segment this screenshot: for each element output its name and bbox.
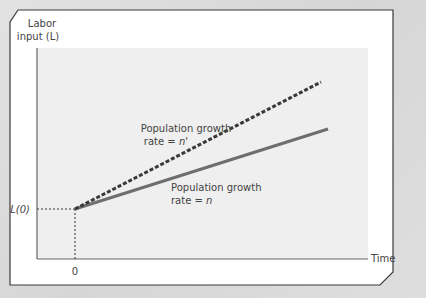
- x-tick-0: 0: [72, 266, 78, 277]
- y-axis-label-line1: Labor: [28, 18, 57, 29]
- series-n-label-line1: Population growth: [171, 182, 262, 193]
- series-n-prime-label-line2: rate = n': [144, 136, 188, 147]
- y-axis-label-line2: input (L): [17, 31, 59, 42]
- x-axis-label: Time: [370, 253, 395, 264]
- y-tick-l0: L(0): [10, 204, 30, 215]
- plot-area: [37, 48, 368, 259]
- labor-input-chart: Labor input (L) Time L(0) 0 Population g…: [0, 0, 426, 298]
- series-n-prime-label-line1: Population growth: [141, 123, 232, 134]
- series-n-label-line2: rate = n: [171, 195, 212, 206]
